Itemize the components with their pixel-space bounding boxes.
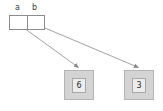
value-object-box-6[interactable]: 6 (64, 70, 94, 100)
value-object-label-3: 3 (132, 78, 146, 93)
value-object-label-6: 6 (72, 78, 86, 93)
value-object-box-3[interactable]: 3 (124, 70, 154, 100)
pointer-edge-a-to-6 (19, 24, 79, 68)
variable-cell-b[interactable] (27, 16, 44, 29)
pointer-edge-b-to-3 (36, 24, 139, 68)
variable-label-b: b (26, 3, 43, 13)
variable-table (9, 15, 45, 30)
variable-labels: a b (9, 3, 44, 14)
diagram-canvas: a b 6 3 (0, 0, 163, 111)
variable-cell-a[interactable] (10, 16, 27, 29)
variable-label-a: a (9, 3, 26, 13)
